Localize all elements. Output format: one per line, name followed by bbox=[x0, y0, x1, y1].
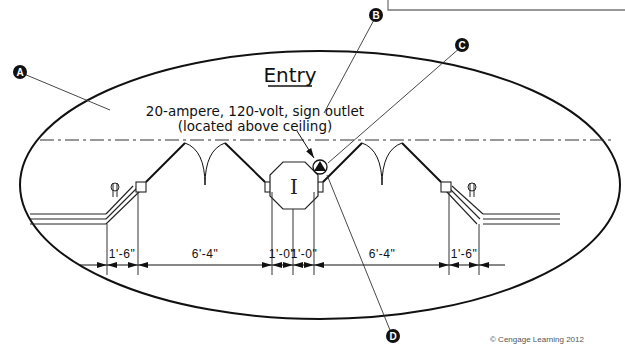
dimension-label-center-right: 1'-0" bbox=[291, 247, 317, 261]
left-double-door bbox=[146, 143, 265, 185]
callout-a: A bbox=[13, 65, 27, 79]
right-jamb-box bbox=[441, 182, 451, 192]
right-double-door bbox=[323, 143, 441, 185]
sign-outlet-note-line1: 20-ampere, 120-volt, sign outlet bbox=[146, 103, 364, 119]
leader-line-a bbox=[24, 74, 110, 110]
sign-outlet-note-line2: (located above ceiling) bbox=[178, 118, 333, 134]
dimension-label-left-jamb: 1'-6" bbox=[109, 247, 135, 261]
right-wall-outlet-symbol bbox=[468, 183, 476, 197]
svg-text:D: D bbox=[389, 331, 396, 342]
callout-b: B bbox=[369, 8, 383, 22]
sign-outlet-symbol bbox=[313, 160, 327, 174]
note-pointer-arrow bbox=[297, 131, 314, 158]
right-wall bbox=[446, 186, 560, 224]
dimension-label-left-door: 6'-4" bbox=[192, 247, 218, 261]
svg-text:C: C bbox=[458, 40, 465, 51]
svg-text:B: B bbox=[372, 10, 379, 21]
left-wall bbox=[30, 186, 140, 224]
adjacent-box-outline bbox=[388, 0, 625, 10]
svg-text:A: A bbox=[16, 67, 23, 78]
center-fixture-label: I bbox=[290, 175, 298, 199]
left-jamb-box bbox=[136, 182, 146, 192]
plan-title: Entry bbox=[263, 63, 316, 87]
callout-c: C bbox=[455, 38, 469, 52]
dimension-label-right-jamb: 1'-6" bbox=[451, 247, 477, 261]
leader-line-b bbox=[324, 18, 375, 113]
copyright-notice: © Cengage Learning 2012 bbox=[490, 335, 585, 344]
dimension-label-right-door: 6'-4" bbox=[369, 247, 395, 261]
entry-electrical-plan-diagram: Entry 20-ampere, 120-volt, sign outlet (… bbox=[0, 0, 625, 359]
left-wall-outlet-symbol bbox=[111, 183, 119, 197]
callout-d: D bbox=[386, 329, 400, 343]
